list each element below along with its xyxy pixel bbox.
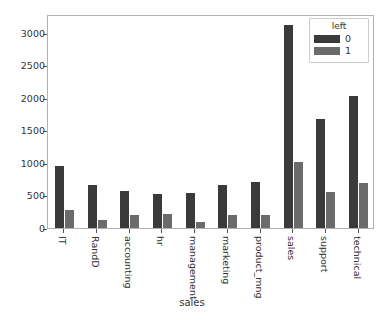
x-tick-label: product_mng: [255, 236, 265, 299]
y-tick-label: 500: [27, 191, 45, 201]
x-tick-label: hr: [156, 236, 166, 246]
x-tick-label: management: [189, 236, 199, 300]
bar-marketing-0: [218, 185, 227, 228]
legend-label-0: 0: [345, 34, 351, 44]
x-tick-label: RandD: [91, 236, 101, 268]
bar-support-0: [316, 119, 325, 228]
bar-hr-1: [163, 214, 172, 228]
bar-marketing-1: [228, 215, 237, 228]
bar-IT-0: [55, 166, 64, 228]
x-tick-label: accounting: [124, 236, 134, 289]
x-tick-mark: [227, 229, 228, 233]
x-tick-mark: [161, 229, 162, 233]
bar-sales-1: [294, 162, 303, 228]
bar-technical-1: [359, 183, 368, 228]
x-tick-mark: [96, 229, 97, 233]
bar-accounting-1: [130, 215, 139, 228]
legend: left 0 1: [309, 18, 369, 63]
bar-IT-1: [65, 210, 74, 228]
legend-swatch-1: [314, 47, 340, 55]
bar-support-1: [326, 192, 335, 228]
bar-RandD-0: [88, 185, 97, 228]
legend-label-1: 1: [345, 46, 351, 56]
y-tick-label: 1500: [21, 126, 45, 136]
bar-sales-0: [284, 25, 293, 228]
x-tick-label: sales: [287, 236, 297, 260]
x-tick-mark: [325, 229, 326, 233]
x-tick-mark: [260, 229, 261, 233]
bar-RandD-1: [98, 220, 107, 228]
bar-management-1: [196, 222, 205, 228]
bar-chart-figure: 050010001500200025003000 ITRandDaccounti…: [0, 0, 384, 323]
x-tick-label: IT: [58, 236, 68, 245]
y-tick-label: 1000: [21, 159, 45, 169]
legend-swatch-0: [314, 35, 340, 43]
y-tick-label: 2000: [21, 94, 45, 104]
x-tick-mark: [194, 229, 195, 233]
x-tick-label: technical: [353, 236, 363, 279]
bar-product_mng-0: [251, 182, 260, 228]
x-tick-mark: [63, 229, 64, 233]
bar-hr-0: [153, 194, 162, 228]
bar-management-0: [186, 193, 195, 228]
bar-product_mng-1: [261, 215, 270, 228]
x-tick-label: support: [320, 236, 330, 272]
x-tick-mark: [358, 229, 359, 233]
y-tick-label: 0: [39, 224, 45, 234]
legend-entry-1: 1: [314, 46, 364, 56]
y-tick-label: 3000: [21, 29, 45, 39]
y-tick-label: 2500: [21, 61, 45, 71]
bar-accounting-0: [120, 191, 129, 228]
legend-title: left: [314, 22, 364, 31]
x-tick-mark: [129, 229, 130, 233]
x-tick-mark: [292, 229, 293, 233]
bar-technical-0: [349, 96, 358, 228]
legend-entry-0: 0: [314, 34, 364, 44]
x-tick-label: marketing: [222, 236, 232, 284]
x-axis-label: sales: [0, 297, 384, 308]
